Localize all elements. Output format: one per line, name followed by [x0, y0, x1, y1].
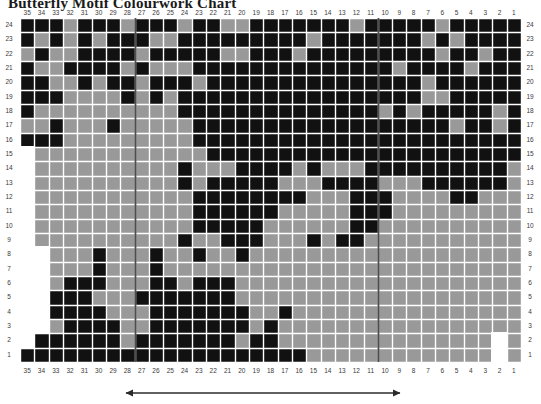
stitch-grid-canvas[interactable]: [20, 18, 521, 362]
axis-tick-label: 4: [1, 305, 17, 319]
axis-tick-label: 17: [278, 366, 292, 375]
axis-tick-label: 5: [450, 8, 464, 17]
axis-tick-label: 31: [77, 8, 91, 17]
axis-tick-label: 9: [522, 233, 538, 247]
column-labels-top: 3534333231302928272625242322212019181716…: [20, 8, 521, 17]
axis-tick-label: 6: [522, 276, 538, 290]
axis-tick-label: 3: [1, 319, 17, 333]
axis-tick-label: 18: [264, 366, 278, 375]
axis-tick-label: 4: [522, 305, 538, 319]
axis-tick-label: 27: [135, 8, 149, 17]
axis-tick-label: 11: [1, 204, 17, 218]
axis-tick-label: 19: [522, 90, 538, 104]
axis-tick-label: 8: [407, 8, 421, 17]
axis-tick-label: 22: [206, 8, 220, 17]
axis-tick-label: 4: [464, 8, 478, 17]
axis-tick-label: 3: [478, 366, 492, 375]
axis-tick-label: 16: [292, 366, 306, 375]
axis-tick-label: 24: [1, 18, 17, 32]
axis-tick-label: 14: [321, 366, 335, 375]
axis-tick-label: 22: [206, 366, 220, 375]
axis-tick-label: 33: [49, 8, 63, 17]
row-labels-right: 242322212019181716151413121110987654321: [522, 18, 538, 362]
axis-tick-label: 35: [20, 8, 34, 17]
axis-tick-label: 20: [522, 75, 538, 89]
axis-tick-label: 7: [421, 366, 435, 375]
axis-tick-label: 23: [1, 32, 17, 46]
axis-tick-label: 10: [378, 366, 392, 375]
axis-tick-label: 35: [20, 366, 34, 375]
axis-tick-label: 3: [522, 319, 538, 333]
axis-tick-label: 1: [507, 366, 521, 375]
axis-tick-label: 20: [235, 8, 249, 17]
axis-tick-label: 1: [507, 8, 521, 17]
axis-tick-label: 13: [1, 176, 17, 190]
axis-tick-label: 21: [1, 61, 17, 75]
axis-tick-label: 5: [1, 290, 17, 304]
axis-tick-label: 21: [221, 366, 235, 375]
axis-tick-label: 12: [522, 190, 538, 204]
axis-tick-label: 12: [1, 190, 17, 204]
axis-tick-label: 18: [1, 104, 17, 118]
axis-tick-label: 6: [435, 366, 449, 375]
axis-tick-label: 19: [249, 366, 263, 375]
axis-tick-label: 18: [264, 8, 278, 17]
axis-tick-label: 11: [364, 366, 378, 375]
axis-tick-label: 17: [1, 118, 17, 132]
axis-tick-label: 28: [120, 366, 134, 375]
axis-tick-label: 12: [349, 8, 363, 17]
axis-tick-label: 23: [192, 366, 206, 375]
axis-tick-label: 10: [1, 219, 17, 233]
axis-tick-label: 8: [522, 247, 538, 261]
axis-tick-label: 26: [149, 8, 163, 17]
axis-tick-label: 30: [92, 366, 106, 375]
axis-tick-label: 15: [306, 8, 320, 17]
axis-tick-label: 5: [450, 366, 464, 375]
column-labels-bottom: 3534333231302928272625242322212019181716…: [20, 366, 521, 375]
axis-tick-label: 20: [235, 366, 249, 375]
axis-tick-label: 27: [135, 366, 149, 375]
axis-tick-label: 13: [335, 8, 349, 17]
axis-tick-label: 15: [1, 147, 17, 161]
axis-tick-label: 16: [292, 8, 306, 17]
axis-tick-label: 2: [493, 366, 507, 375]
axis-tick-label: 14: [1, 161, 17, 175]
stitch-grid[interactable]: [20, 18, 521, 362]
axis-tick-label: 24: [178, 8, 192, 17]
axis-tick-label: 30: [92, 8, 106, 17]
axis-tick-label: 17: [522, 118, 538, 132]
axis-tick-label: 31: [77, 366, 91, 375]
axis-tick-label: 34: [34, 8, 48, 17]
axis-tick-label: 33: [49, 366, 63, 375]
axis-tick-label: 23: [522, 32, 538, 46]
pattern-repeat-arrow: [118, 386, 408, 400]
axis-tick-label: 1: [522, 348, 538, 362]
axis-tick-label: 2: [522, 333, 538, 347]
axis-tick-label: 10: [378, 8, 392, 17]
axis-tick-label: 21: [522, 61, 538, 75]
axis-tick-label: 15: [306, 366, 320, 375]
axis-tick-label: 32: [63, 8, 77, 17]
axis-tick-label: 7: [421, 8, 435, 17]
axis-tick-label: 24: [178, 366, 192, 375]
axis-tick-label: 23: [192, 8, 206, 17]
axis-tick-label: 2: [493, 8, 507, 17]
axis-tick-label: 19: [249, 8, 263, 17]
axis-tick-label: 29: [106, 366, 120, 375]
axis-tick-label: 9: [1, 233, 17, 247]
axis-tick-label: 6: [1, 276, 17, 290]
axis-tick-label: 20: [1, 75, 17, 89]
axis-tick-label: 4: [464, 366, 478, 375]
axis-tick-label: 10: [522, 219, 538, 233]
axis-tick-label: 28: [120, 8, 134, 17]
axis-tick-label: 12: [349, 366, 363, 375]
axis-tick-label: 7: [522, 262, 538, 276]
axis-tick-label: 26: [149, 366, 163, 375]
axis-tick-label: 13: [335, 366, 349, 375]
axis-tick-label: 25: [163, 366, 177, 375]
axis-tick-label: 16: [522, 133, 538, 147]
axis-tick-label: 32: [63, 366, 77, 375]
axis-tick-label: 5: [522, 290, 538, 304]
axis-tick-label: 8: [1, 247, 17, 261]
axis-tick-label: 25: [163, 8, 177, 17]
